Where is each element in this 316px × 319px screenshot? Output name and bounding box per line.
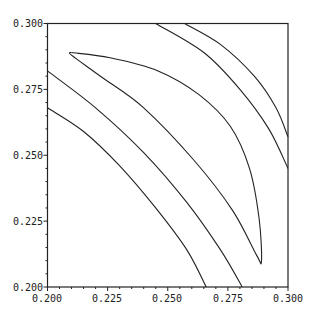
plot-frame xyxy=(48,24,289,288)
x-tick-label: 0.275 xyxy=(213,293,243,304)
x-tick-label: 0.200 xyxy=(32,293,62,304)
y-tick-label: 0.300 xyxy=(13,18,43,29)
contour-5 xyxy=(185,24,288,137)
x-tick-label: 0.300 xyxy=(273,293,303,304)
y-tick-label: 0.200 xyxy=(13,282,43,293)
y-tick-label: 0.250 xyxy=(13,150,43,161)
y-tick-label: 0.275 xyxy=(13,84,43,95)
y-tick-label: 0.225 xyxy=(13,216,43,227)
contour-3 xyxy=(69,52,261,263)
x-tick-label: 0.225 xyxy=(92,293,122,304)
contour-lines xyxy=(48,24,289,288)
x-tick-label: 0.250 xyxy=(152,293,182,304)
contour-2 xyxy=(48,71,243,287)
contour-plot: 0.200 0.225 0.250 0.275 0.300 0.300 0.27… xyxy=(0,0,316,319)
axis-ticks xyxy=(44,24,289,292)
